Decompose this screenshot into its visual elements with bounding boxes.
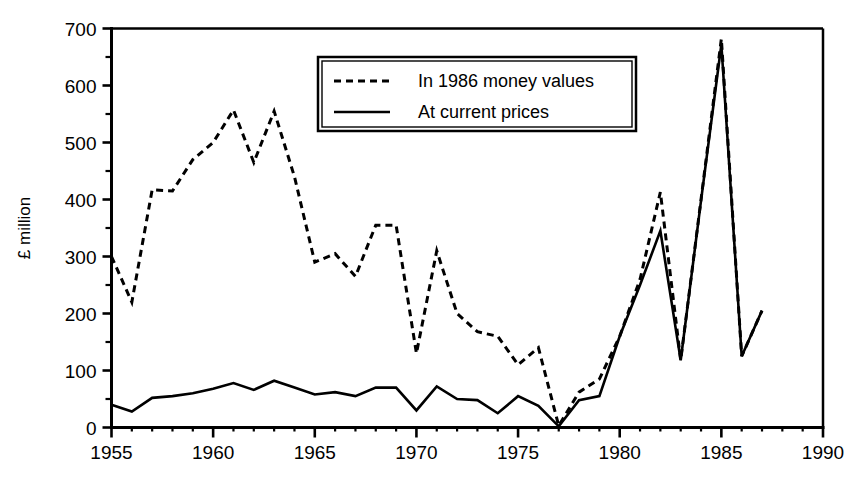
x-tick-label: 1980 (599, 442, 641, 463)
chart-legend: In 1986 money valuesAt current prices (318, 57, 636, 131)
y-tick-label: 700 (65, 19, 97, 40)
y-axis-title-text: £ million (15, 197, 34, 259)
x-axis-tick-labels: 19551960196519701975198019851990 (90, 442, 844, 463)
y-tick-label: 100 (65, 361, 97, 382)
x-tick-label: 1985 (700, 442, 742, 463)
x-tick-label: 1960 (192, 442, 234, 463)
y-tick-label: 200 (65, 304, 97, 325)
y-tick-label: 500 (65, 133, 97, 154)
line-chart: 19551960196519701975198019851990 0100200… (0, 0, 848, 486)
x-tick-label: 1990 (802, 442, 844, 463)
y-tick-label: 600 (65, 76, 97, 97)
y-tick-label: 400 (65, 190, 97, 211)
x-tick-label: 1955 (90, 442, 132, 463)
y-axis-title: £ million (15, 197, 34, 259)
legend-label: At current prices (418, 102, 549, 122)
legend-label: In 1986 money values (418, 71, 594, 91)
y-tick-label: 300 (65, 247, 97, 268)
chart-container: 19551960196519701975198019851990 0100200… (0, 0, 848, 486)
y-tick-label: 0 (86, 418, 97, 439)
x-tick-label: 1965 (294, 442, 336, 463)
x-tick-label: 1970 (395, 442, 437, 463)
x-tick-label: 1975 (497, 442, 539, 463)
y-axis-tick-labels: 0100200300400500600700 (65, 19, 97, 439)
